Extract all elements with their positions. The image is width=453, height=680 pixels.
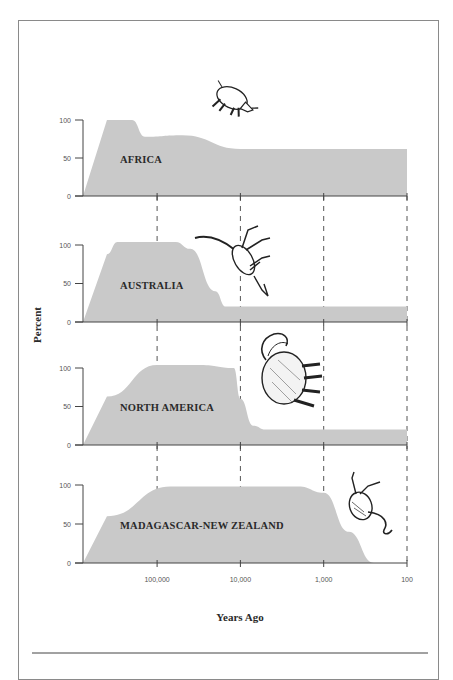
- x-tick-label: 100: [401, 576, 413, 583]
- y-tick-label: 0: [67, 442, 71, 449]
- panel-africa: 050100AFRICA: [59, 117, 407, 201]
- y-tick-label: 100: [59, 242, 71, 249]
- y-tick-label: 0: [67, 193, 71, 200]
- x-tick-label: 1,000: [315, 576, 333, 583]
- y-tick-label: 50: [63, 403, 71, 410]
- y-tick-label: 0: [67, 319, 71, 326]
- y-tick-label: 50: [63, 155, 71, 162]
- x-axis-title: Years Ago: [216, 611, 264, 623]
- mammoth-icon: [262, 334, 322, 406]
- panel-label: NORTH AMERICA: [120, 402, 214, 413]
- moa-bird-icon: [346, 472, 392, 534]
- y-axis-title: Percent: [31, 307, 43, 343]
- y-tick-label: 100: [59, 117, 71, 124]
- y-tick-label: 50: [63, 280, 71, 287]
- y-tick-label: 100: [59, 365, 71, 372]
- x-tick-label: 10,000: [230, 576, 252, 583]
- y-tick-label: 100: [59, 482, 71, 489]
- y-tick-label: 0: [67, 560, 71, 567]
- panel-label: AFRICA: [120, 154, 162, 165]
- panel-label: MADAGASCAR-NEW ZEALAND: [120, 520, 284, 531]
- panel-north-america: 050100NORTH AMERICA: [59, 365, 407, 450]
- x-axis: 100,00010,0001,000100: [144, 576, 412, 583]
- rhinoceros-icon: [207, 80, 262, 125]
- x-tick-label: 100,000: [144, 576, 169, 583]
- y-tick-label: 50: [63, 521, 71, 528]
- panel-label: AUSTRALIA: [120, 280, 184, 291]
